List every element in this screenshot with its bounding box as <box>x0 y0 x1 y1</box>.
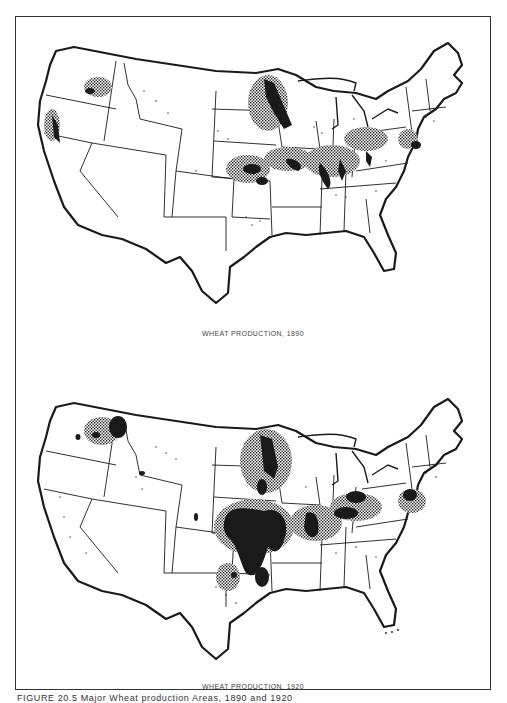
map-wheat-1920 <box>16 377 492 677</box>
secondary-wheat-areas-1890 <box>44 75 418 183</box>
map-label-1890: WHEAT PRODUCTION, 1890 <box>16 330 490 337</box>
map-wheat-1890 <box>16 21 492 321</box>
figure-frame: WHEAT PRODUCTION, 1890 <box>15 16 491 690</box>
us-map-1890-svg <box>16 21 492 321</box>
map-label-1920: WHEAT PRODUCTION, 1920 <box>16 683 490 690</box>
us-map-1920-svg <box>16 377 492 677</box>
figure-caption: FIGURE 20.5 Major Wheat production Areas… <box>17 693 293 703</box>
